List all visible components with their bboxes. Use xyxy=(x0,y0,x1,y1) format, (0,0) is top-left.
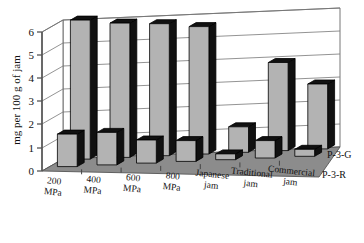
grouped-3d-bar-chart: 6 5 4 3 2 1 0 mg per 100 g of jam 200MPa… xyxy=(0,0,364,243)
bar xyxy=(97,128,124,165)
y-tick-label: 3 xyxy=(29,95,35,107)
bar xyxy=(255,137,282,158)
y-tick-label: 2 xyxy=(29,118,35,130)
category-label: 600MPa xyxy=(123,172,144,195)
category-label: Japanesejam xyxy=(194,168,230,192)
category-label: 400MPa xyxy=(83,174,104,197)
series-label-back: P-3-G xyxy=(327,149,351,160)
y-tick-labels: 6 5 4 3 2 1 0 xyxy=(29,26,35,177)
y-tick-label: 1 xyxy=(29,142,35,154)
bar xyxy=(295,145,322,156)
bar xyxy=(150,20,177,156)
bar xyxy=(137,136,164,163)
bar xyxy=(216,150,243,160)
category-label: 200MPa xyxy=(44,175,65,198)
bar xyxy=(229,123,256,153)
y-axis xyxy=(37,32,42,171)
y-tick-label: 4 xyxy=(29,72,35,84)
bar xyxy=(176,137,203,162)
y-tick-label: 0 xyxy=(29,165,35,177)
category-label: 800MPa xyxy=(162,170,183,193)
category-label: Traditionaljam xyxy=(229,165,273,190)
bar xyxy=(189,23,216,154)
chart-container: 6 5 4 3 2 1 0 mg per 100 g of jam 200MPa… xyxy=(0,0,364,243)
y-axis-title: mg per 100 g of jam xyxy=(10,55,22,145)
y-tick-label: 5 xyxy=(29,49,35,61)
bar xyxy=(308,80,335,149)
y-tick-label: 6 xyxy=(29,26,35,38)
bar xyxy=(57,130,84,167)
series-label-front: P-3-R xyxy=(322,169,346,180)
